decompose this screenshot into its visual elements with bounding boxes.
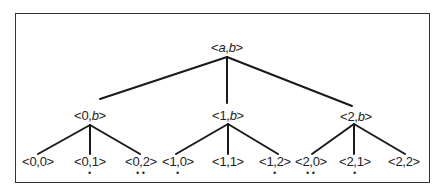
leaf-2-0-marks: ••: [305, 170, 316, 178]
node-2b: <2,b>: [340, 110, 372, 123]
leaf-0-0: <0,0>: [22, 155, 54, 168]
tree-edge: [38, 125, 90, 154]
leaf-0-1-marks: •: [87, 170, 93, 178]
leaf-1-2: <1,2>: [259, 155, 291, 168]
leaf-2-1-marks: •: [352, 170, 358, 178]
tree-edge: [176, 124, 228, 154]
leaf-2-2: <2,2>: [388, 155, 420, 168]
node-1b: <1,b>: [212, 109, 244, 122]
leaf-0-2-marks: ••: [135, 170, 146, 178]
leaf-1-1: <1,1>: [212, 155, 244, 168]
tree-edge: [100, 57, 227, 99]
leaf-2-1: <2,1>: [339, 155, 371, 168]
leaf-0-1: <0,1>: [74, 155, 106, 168]
leaf-1-0: <1,0>: [162, 155, 194, 168]
tree-edge: [312, 124, 354, 154]
tree-edge: [90, 125, 140, 154]
leaf-1-0-marks: •: [175, 170, 181, 178]
node-0b: <0,b>: [74, 109, 106, 122]
tree-edge: [354, 124, 405, 154]
tree-edge: [227, 57, 352, 106]
leaf-2-0: <2,0>: [295, 155, 327, 168]
leaf-1-2-marks: •: [272, 170, 278, 178]
tree-edge: [228, 124, 278, 154]
root-node: <a,b>: [211, 41, 243, 54]
leaf-0-2: <0,2>: [125, 155, 157, 168]
